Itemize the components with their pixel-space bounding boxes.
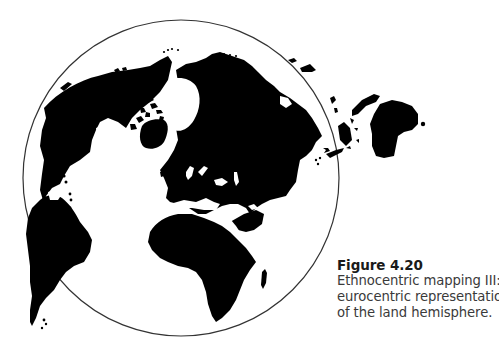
- hudson-bay: [96, 124, 116, 146]
- figure-label: Figure 4.20: [337, 257, 499, 273]
- eurasia: [160, 52, 322, 214]
- caption-line-3: of the land hemisphere.: [337, 305, 499, 321]
- greenland: [140, 119, 168, 149]
- caption-line-2: eurocentric representation: [337, 289, 499, 305]
- south-america: [26, 195, 92, 326]
- caption-line-1: Ethnocentric mapping III:: [337, 273, 499, 289]
- borneo: [338, 122, 352, 146]
- philippines: [330, 96, 338, 113]
- new-zealand: [421, 122, 425, 126]
- madagascar: [261, 269, 267, 289]
- figure-caption: Figure 4.20 Ethnocentric mapping III: eu…: [337, 257, 499, 321]
- south-china-sea: [312, 146, 326, 158]
- australia: [370, 100, 418, 158]
- sumatra-java: [322, 148, 344, 158]
